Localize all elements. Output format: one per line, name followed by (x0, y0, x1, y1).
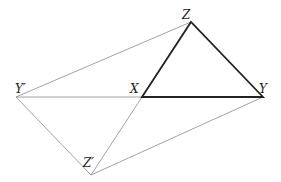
edge-yprime-z (16, 22, 191, 97)
label-x: X (129, 82, 139, 96)
triangle-diagram: Z Y X Y′ Z′ (0, 0, 281, 182)
edge-yprime-zprime (16, 97, 91, 175)
label-y: Y (259, 82, 268, 96)
label-yprime: Y′ (15, 82, 26, 96)
triangle-xyz (142, 22, 263, 97)
thin-lines (16, 22, 263, 175)
label-z: Z (181, 8, 191, 22)
label-zprime: Z′ (82, 156, 94, 170)
thick-triangle (142, 22, 263, 97)
